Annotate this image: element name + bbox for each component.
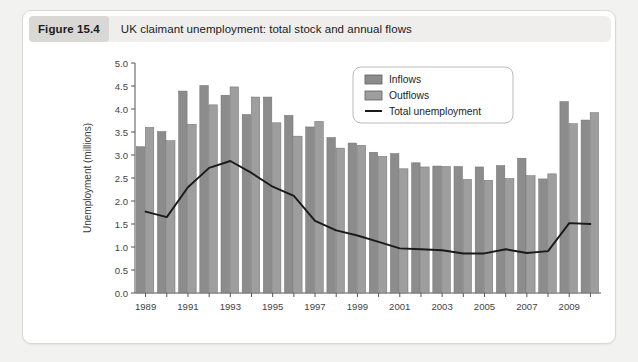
bar-inflows-1995 — [263, 97, 271, 293]
unemployment-chart: 0.00.51.01.52.02.53.03.54.04.55.0 198919… — [23, 45, 617, 343]
x-tick-label: 1991 — [177, 301, 198, 312]
bar-inflows-1992 — [200, 86, 208, 293]
y-tick-label: 0.0 — [115, 288, 128, 299]
bar-inflows-1991 — [179, 91, 187, 293]
bar-outflows-2000 — [378, 156, 386, 293]
bar-inflows-2010 — [581, 120, 589, 293]
bar-inflows-2006 — [496, 166, 504, 293]
chart-legend: InflowsOutflowsTotal unemployment — [353, 67, 513, 123]
bar-inflows-1998 — [327, 138, 335, 293]
bar-inflows-2000 — [369, 152, 377, 293]
bar-inflows-1994 — [242, 115, 250, 293]
bar-outflows-2009 — [569, 124, 577, 293]
x-tick-label: 2005 — [474, 301, 495, 312]
x-tick-label: 2007 — [516, 301, 537, 312]
legend-label: Outflows — [389, 90, 429, 101]
bar-inflows-1993 — [221, 95, 229, 293]
bar-outflows-2006 — [505, 178, 513, 293]
bar-inflows-1999 — [348, 143, 356, 293]
y-tick-label: 0.5 — [115, 265, 128, 276]
x-tick-label: 2003 — [431, 301, 452, 312]
bar-inflows-2009 — [560, 102, 568, 293]
y-axis-title: Unemployment (millions) — [82, 123, 93, 233]
bar-inflows-2002 — [412, 163, 420, 293]
bar-outflows-2005 — [484, 180, 492, 293]
x-tick-label: 1997 — [304, 301, 325, 312]
bar-outflows-1997 — [315, 121, 323, 293]
x-tick-label: 2001 — [389, 301, 410, 312]
y-tick-label: 3.5 — [115, 127, 128, 138]
y-tick-label: 1.0 — [115, 242, 128, 253]
figure-header: Figure 15.4 UK claimant unemployment: to… — [29, 16, 611, 42]
bar-outflows-1995 — [272, 123, 280, 293]
y-tick-label: 2.0 — [115, 196, 128, 207]
bar-inflows-2005 — [475, 167, 483, 293]
bar-inflows-2004 — [454, 167, 462, 294]
x-tick-label: 1989 — [135, 301, 156, 312]
bar-outflows-2007 — [527, 176, 535, 293]
figure-card: Figure 15.4 UK claimant unemployment: to… — [22, 10, 616, 344]
bar-inflows-1989 — [136, 147, 144, 293]
bar-outflows-1989 — [145, 127, 153, 293]
bar-inflows-1996 — [285, 115, 293, 293]
bar-outflows-1996 — [294, 136, 302, 293]
figure-number-badge: Figure 15.4 — [29, 16, 109, 42]
y-axis: 0.00.51.01.52.02.53.03.54.04.55.0 — [115, 58, 135, 299]
legend-swatch-inflows — [365, 75, 382, 84]
figure-caption: UK claimant unemployment: total stock an… — [109, 23, 412, 35]
bar-outflows-2010 — [590, 113, 598, 293]
bar-outflows-1993 — [230, 87, 238, 293]
y-tick-label: 2.5 — [115, 173, 128, 184]
bar-outflows-1999 — [357, 145, 365, 293]
legend-swatch-outflows — [365, 91, 382, 100]
y-tick-label: 5.0 — [115, 58, 128, 69]
bar-inflows-2008 — [539, 179, 547, 293]
bar-outflows-1994 — [251, 97, 259, 293]
x-tick-label: 1993 — [220, 301, 241, 312]
bar-inflows-2003 — [433, 166, 441, 293]
legend-label: Inflows — [389, 74, 421, 85]
bar-outflows-2004 — [463, 179, 471, 293]
bar-outflows-1998 — [336, 148, 344, 293]
bar-outflows-2002 — [421, 167, 429, 293]
x-tick-label: 2009 — [559, 301, 580, 312]
y-tick-label: 1.5 — [115, 219, 128, 230]
x-axis: 1989199119931995199719992001200320052007… — [135, 293, 601, 312]
bar-outflows-1991 — [188, 124, 196, 293]
y-tick-label: 4.5 — [115, 81, 128, 92]
y-tick-label: 3.0 — [115, 150, 128, 161]
y-tick-label: 4.0 — [115, 104, 128, 115]
x-tick-label: 1999 — [347, 301, 368, 312]
bar-outflows-2008 — [548, 174, 556, 293]
bar-outflows-2001 — [400, 169, 408, 293]
bar-inflows-2001 — [390, 154, 398, 293]
bar-outflows-2003 — [442, 167, 450, 294]
bar-inflows-1990 — [157, 132, 165, 293]
bar-outflows-1992 — [209, 105, 217, 293]
legend-label: Total unemployment — [389, 106, 481, 117]
x-tick-label: 1995 — [262, 301, 283, 312]
chart-plot-area: 0.00.51.01.52.02.53.03.54.04.55.0 198919… — [23, 45, 617, 343]
bar-inflows-2007 — [518, 158, 526, 293]
